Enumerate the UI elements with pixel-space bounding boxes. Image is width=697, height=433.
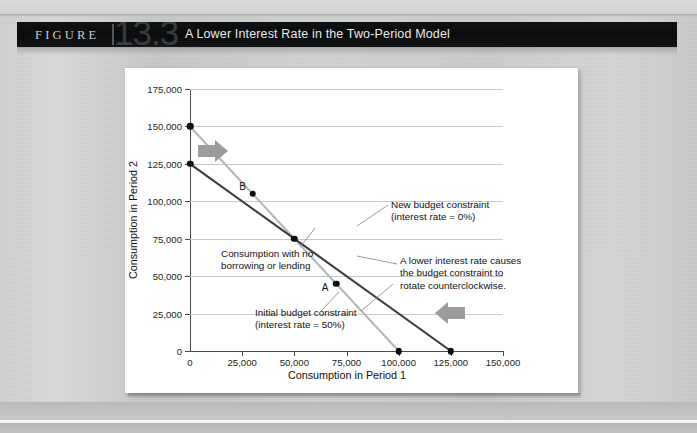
arrow-right-icon <box>435 302 465 324</box>
data-point-b <box>249 191 256 198</box>
direction-arrows <box>198 140 465 324</box>
chart-overlay <box>125 68 578 393</box>
figure-word-label: FIGURE <box>35 28 99 43</box>
arrow-left-icon <box>198 140 228 162</box>
chart-area: Consumption in Period 2 Consumption in P… <box>125 68 578 393</box>
data-point <box>395 348 402 355</box>
figure-header-shadow <box>17 47 677 55</box>
page-bottom-band <box>0 402 697 420</box>
page-top-strip-shadow <box>0 14 697 17</box>
data-point <box>187 123 194 130</box>
annotation-no-borrowing: Consumption with no borrowing or lending <box>221 248 313 273</box>
figure-number: 13.3 <box>114 22 178 47</box>
annotation-leader-line <box>301 228 315 246</box>
data-point <box>291 235 298 242</box>
annotation-rotate-note: A lower interest rate causes the budget … <box>400 255 521 292</box>
figure-card: Consumption in Period 2 Consumption in P… <box>125 68 578 393</box>
data-point-a <box>333 280 340 287</box>
data-point <box>448 348 455 355</box>
annotation-leader-line <box>357 256 397 264</box>
figure-header-bar: FIGURE 13.3 A Lower Interest Rate in the… <box>17 22 677 47</box>
page-bottom-band-secondary <box>0 423 697 433</box>
data-point <box>187 161 194 168</box>
annotation-initial-budget-constraint: Initial budget constraint (interest rate… <box>255 307 357 332</box>
annotation-new-budget-constraint: New budget constraint (interest rate = 0… <box>391 199 489 224</box>
point-label-a: A <box>322 281 329 292</box>
leader-lines <box>301 205 397 311</box>
annotation-leader-line <box>357 205 388 226</box>
figure-card-shadow <box>128 393 581 399</box>
point-label-b: B <box>239 180 246 191</box>
figure-title: A Lower Interest Rate in the Two-Period … <box>185 27 450 41</box>
